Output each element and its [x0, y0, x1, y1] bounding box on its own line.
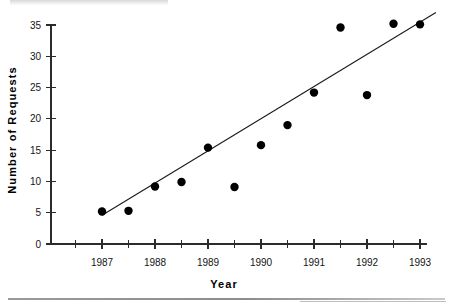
x-axis-tick-label: 1991	[303, 257, 326, 268]
y-axis-tick-label: 0	[35, 239, 41, 250]
data-point	[204, 143, 212, 151]
x-axis-tick-label: 1993	[409, 257, 432, 268]
y-axis: 05101520253035	[30, 20, 56, 250]
x-axis-title: Year	[210, 278, 238, 290]
x-axis-tick-label: 1989	[197, 257, 220, 268]
y-axis-tick-label: 35	[30, 20, 42, 31]
x-axis-tick-label: 1987	[91, 257, 114, 268]
x-axis-tick-label: 1990	[250, 257, 273, 268]
scan-artifact-bottom-rule-secondary	[300, 301, 446, 302]
chart-page: 05101520253035 1987198819891990199119921…	[0, 0, 449, 307]
data-point	[230, 183, 238, 191]
requests-per-year-scatter-chart: 05101520253035 1987198819891990199119921…	[0, 0, 449, 307]
data-point	[310, 88, 318, 96]
data-point	[389, 20, 397, 28]
data-point	[257, 141, 265, 149]
y-axis-tick-label: 20	[30, 113, 42, 124]
y-axis-tick-label: 25	[30, 82, 42, 93]
data-point	[283, 121, 291, 129]
x-axis: 1987198819891990199119921993	[51, 239, 432, 268]
y-axis-title: Number of Requests	[6, 66, 18, 193]
x-axis-tick-label: 1988	[144, 257, 167, 268]
data-point	[151, 182, 159, 190]
data-point	[336, 23, 344, 31]
y-axis-tick-label: 10	[30, 176, 42, 187]
data-point	[363, 91, 371, 99]
data-point	[416, 20, 424, 28]
y-axis-tick-label: 5	[35, 207, 41, 218]
y-axis-tick-label: 15	[30, 145, 42, 156]
y-axis-tick-label: 30	[30, 51, 42, 62]
data-point	[177, 178, 185, 186]
scan-artifact-bottom-rule	[8, 298, 445, 300]
x-axis-tick-label: 1992	[356, 257, 379, 268]
data-point	[98, 207, 106, 215]
data-point	[124, 207, 132, 215]
